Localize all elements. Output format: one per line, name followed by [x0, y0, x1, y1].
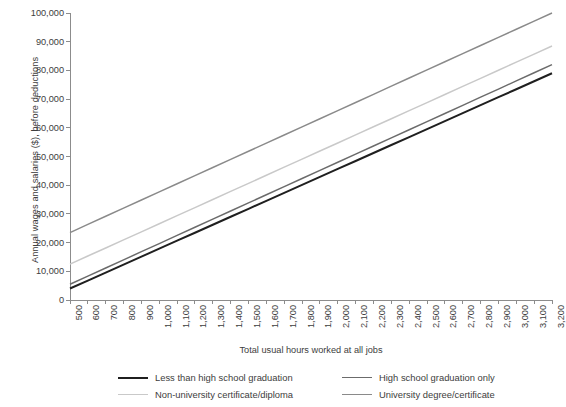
x-tick-label: 500: [74, 305, 84, 320]
x-tick-label: 700: [109, 305, 119, 320]
x-tick-label: 3,000: [520, 305, 530, 328]
chart-legend: Less than high school graduationHigh sch…: [118, 369, 558, 403]
x-tick-label: 1,400: [234, 305, 244, 328]
x-axis-title: Total usual hours worked at all jobs: [70, 345, 552, 355]
x-tick-label: 3,100: [538, 305, 548, 328]
x-tick-label: 2,500: [431, 305, 441, 328]
legend-swatch-icon: [342, 394, 372, 395]
x-tick-label: 600: [91, 305, 101, 320]
legend-item: High school graduation only: [342, 369, 558, 386]
legend-label: University degree/certificate: [379, 389, 495, 400]
x-tick-label: 2,300: [395, 305, 405, 328]
line-chart: Annual wages and salaries ($), before de…: [0, 0, 566, 407]
legend-label: High school graduation only: [379, 372, 495, 383]
legend-item: Non-university certificate/diploma: [118, 386, 334, 403]
x-tick-label: 2,900: [502, 305, 512, 328]
x-tick-label: 1,900: [323, 305, 333, 328]
x-tick-label: 1,800: [306, 305, 316, 328]
x-tick-label: 1,300: [216, 305, 226, 328]
x-tick-label: 2,800: [484, 305, 494, 328]
x-tick-label: 3,200: [556, 305, 566, 328]
legend-swatch-icon: [118, 394, 148, 395]
x-tick-label: 2,100: [359, 305, 369, 328]
x-tick-label: 2,600: [448, 305, 458, 328]
x-tick-label: 2,400: [413, 305, 423, 328]
legend-item: Less than high school graduation: [118, 369, 334, 386]
x-tick-label: 1,200: [198, 305, 208, 328]
x-tick-label: 1,600: [270, 305, 280, 328]
legend-label: Non-university certificate/diploma: [155, 389, 293, 400]
x-tick-label: 1,100: [181, 305, 191, 328]
x-tick-label: 1,000: [163, 305, 173, 328]
x-tick-label: 800: [127, 305, 137, 320]
legend-item: University degree/certificate: [342, 386, 558, 403]
x-tick-label: 900: [145, 305, 155, 320]
x-tick-label: 1,500: [252, 305, 262, 328]
legend-label: Less than high school graduation: [155, 372, 293, 383]
legend-swatch-icon: [118, 377, 148, 379]
x-tick-label: 1,700: [288, 305, 298, 328]
x-tick-label: 2,000: [341, 305, 351, 328]
legend-swatch-icon: [342, 377, 372, 378]
x-tick-label: 2,200: [377, 305, 387, 328]
x-tick-label: 2,700: [466, 305, 476, 328]
